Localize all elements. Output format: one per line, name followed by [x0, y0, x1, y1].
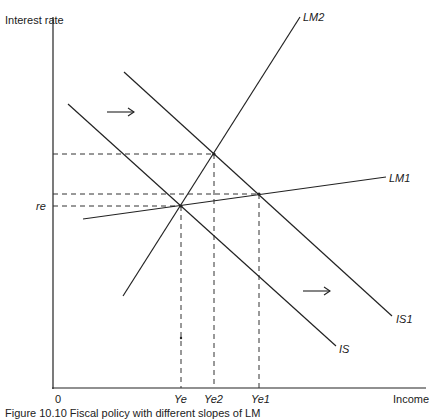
origin-label: 0	[55, 393, 61, 405]
ye2-label: Ye2	[204, 393, 223, 405]
figure-caption: Figure 10.10 Fiscal policy with differen…	[5, 407, 260, 419]
is-label: IS	[339, 343, 349, 355]
equilibrium-e1	[257, 192, 260, 195]
is1-label: IS1	[396, 313, 413, 325]
stray-mark	[180, 337, 182, 339]
lm2-label: LM2	[303, 11, 324, 23]
arrow-right-icon	[107, 108, 134, 116]
lm1-label: LM1	[389, 172, 410, 184]
y-axis-label: Interest rate	[5, 13, 49, 27]
arrow-right-icon	[303, 287, 330, 295]
equilibrium-e2	[212, 152, 215, 155]
x-axis-label: Income	[393, 393, 429, 405]
ye-label: Ye	[174, 393, 187, 405]
ye1-label: Ye1	[251, 393, 270, 405]
equilibrium-e	[179, 204, 182, 207]
lm1-curve	[83, 177, 386, 219]
lm2-curve	[123, 17, 300, 296]
is-curve	[68, 104, 336, 346]
re-label: re	[36, 200, 46, 212]
